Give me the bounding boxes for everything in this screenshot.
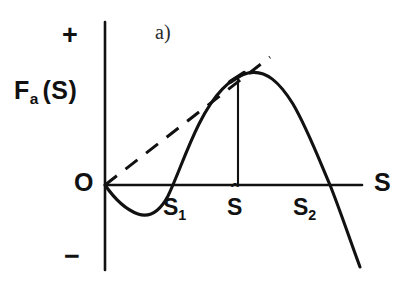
tick-label-s2-subscript: 2 (308, 207, 316, 223)
tick-label-s1: S1 (163, 196, 186, 219)
tick-label-shat: ˆS (227, 196, 242, 219)
tick-label-s2-base: S (293, 194, 308, 220)
y-axis-negative-sign: − (64, 243, 80, 270)
origin-label: O (74, 170, 94, 195)
tick-label-s1-base: S (163, 194, 178, 220)
tick-label-s2: S2 (293, 196, 316, 219)
y-axis-label: Fa(S) (14, 78, 77, 103)
tick-label-shat-wrap: ˆS (227, 196, 242, 219)
y-axis-label-argument: (S) (42, 76, 77, 104)
tangent-chord-dashed (105, 57, 270, 185)
y-axis-positive-sign: + (62, 22, 78, 49)
tick-label-shat-accent: ˆ (231, 182, 238, 204)
y-axis-label-subscript: a (30, 90, 39, 107)
panel-label: a) (155, 22, 171, 42)
tick-label-s1-subscript: 1 (178, 207, 186, 223)
y-axis-label-base: F (14, 76, 30, 104)
x-axis-label: S (374, 170, 391, 195)
uptake-curve (105, 72, 360, 267)
figure-container: + − Fa(S) a) O S S1 ˆS S2 (0, 0, 418, 287)
